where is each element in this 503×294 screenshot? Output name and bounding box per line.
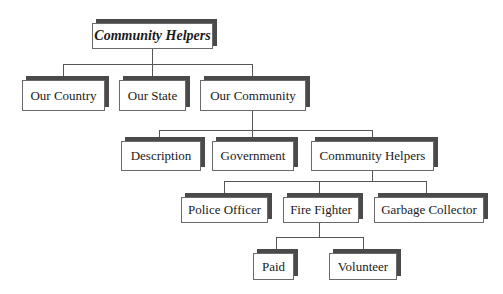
connector [63,64,253,65]
connector [159,130,373,131]
connector [152,48,153,64]
node-label: Our State [119,80,186,111]
connector [224,181,427,182]
node-label: Our Country [22,80,105,111]
node-label: Our Community [200,80,306,111]
connector [319,222,320,237]
node-label: Community Helpers [92,23,213,49]
diagram-canvas: Community Helpers Our Country Our State … [0,0,503,294]
node-label: Paid [253,253,294,280]
node-label: Fire Fighter [283,197,359,223]
node-label: Police Officer [181,197,268,223]
node-label: Description [121,141,201,171]
connector [276,237,364,238]
connector [252,111,253,130]
node-label: Government [212,141,294,171]
node-label: Garbage Collector [374,197,484,223]
node-label: Community Helpers [311,141,434,171]
connector [372,171,373,181]
node-label: Volunteer [329,253,397,280]
